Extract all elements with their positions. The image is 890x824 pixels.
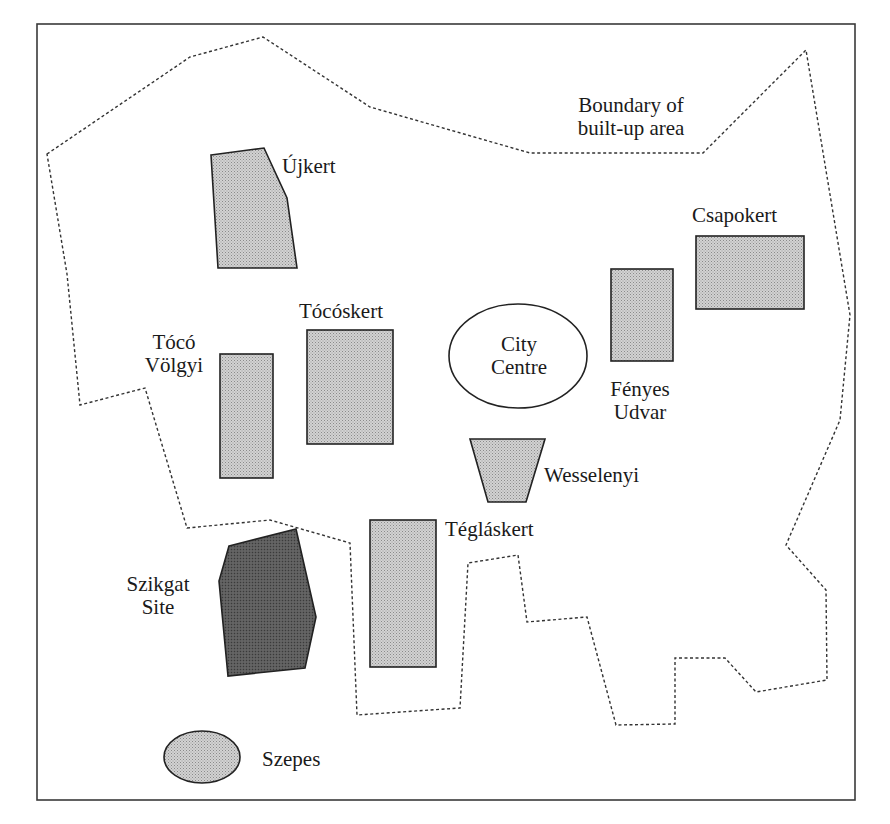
boundary-label-line2: built-up area [555,117,707,140]
city-centre-label-line2: Centre [470,356,568,379]
szikgat-site-area[interactable] [219,529,316,676]
csapokert-area[interactable] [696,236,804,309]
fenyes-udvar-area[interactable] [611,269,673,361]
fenyes-udvar-label-line2: Udvar [598,401,682,424]
toco-volgyi-area[interactable] [220,354,273,478]
csapokert-label: Csapokert [692,204,777,227]
fenyes-udvar-label: Fényes Udvar [598,378,682,424]
toco-volgyi-label-line2: Völgyi [134,354,214,377]
wesselenyi-label: Wesselenyi [544,464,639,487]
szepes-area[interactable] [164,731,240,783]
toco-volgyi-label: Tócó Völgyi [134,331,214,377]
ujkert-label: Újkert [282,155,336,178]
teglaskert-label: Tégláskert [445,518,534,541]
szepes-label: Szepes [262,748,320,771]
boundary-label: Boundary of built-up area [555,94,707,140]
tocoskert-label: Tócóskert [299,300,383,323]
tocoskert-area[interactable] [307,330,393,444]
szikgat-site-label-line2: Site [116,596,200,619]
teglaskert-area[interactable] [370,520,436,667]
city-centre-label-line1: City [470,333,568,356]
szikgat-site-label-line1: Szikgat [116,573,200,596]
toco-volgyi-label-line1: Tócó [134,331,214,354]
fenyes-udvar-label-line1: Fényes [598,378,682,401]
boundary-label-line1: Boundary of [555,94,707,117]
city-centre-label: City Centre [470,333,568,379]
map-frame [37,24,855,800]
map-canvas [0,0,890,824]
szikgat-site-label: Szikgat Site [116,573,200,619]
